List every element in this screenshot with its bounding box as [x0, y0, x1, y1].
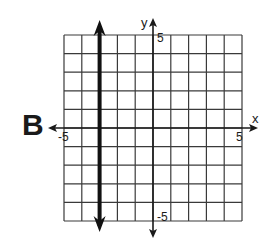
y-max-tick-label: 5 — [157, 31, 164, 45]
coordinate-plane: -555-5xy — [0, 0, 266, 241]
graph-figure: B -555-5xy — [0, 0, 266, 241]
axes — [48, 18, 258, 238]
axis-labels: -555-5xy — [58, 15, 259, 224]
x-axis-label: x — [252, 111, 259, 126]
plotted-lines — [94, 20, 106, 232]
x-min-tick-label: -5 — [58, 130, 69, 144]
y-min-tick-label: -5 — [157, 210, 168, 224]
x-max-tick-label: 5 — [236, 130, 243, 144]
y-axis-label: y — [141, 15, 148, 30]
